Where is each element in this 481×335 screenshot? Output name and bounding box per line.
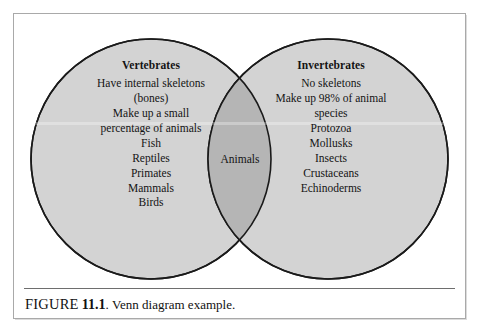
caption-text: Venn diagram example. <box>112 297 235 312</box>
venn-diagram: Vertebrates Have internal skeletons (bon… <box>14 14 465 286</box>
figure-page: Vertebrates Have internal skeletons (bon… <box>0 0 481 335</box>
figure-caption: FIGURE 11.1. Venn diagram example. <box>25 296 445 313</box>
venn-diagram-svg <box>14 14 465 286</box>
caption-figure-number: 11.1 <box>82 297 106 312</box>
figure-frame: Vertebrates Have internal skeletons (bon… <box>13 13 466 319</box>
caption-figure-word: FIGURE <box>25 296 79 312</box>
caption-divider <box>24 288 455 289</box>
scan-band <box>14 122 465 125</box>
